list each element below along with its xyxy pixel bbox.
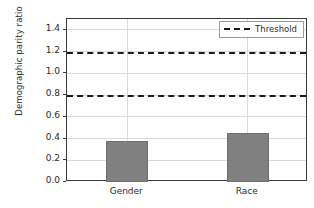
bar-gender <box>106 141 148 182</box>
y-tick-label: 0.2 <box>20 154 60 163</box>
bar-race <box>227 133 269 182</box>
threshold-line-icon <box>224 28 250 32</box>
gridline-horizontal <box>67 160 306 161</box>
x-tick-label: Gender <box>81 186 171 196</box>
gridline-horizontal <box>67 116 306 117</box>
plot-area: Threshold <box>66 18 307 181</box>
y-tick-label: 0.0 <box>20 176 60 185</box>
y-tick-label: 0.6 <box>20 111 60 120</box>
y-tick-label: 0.8 <box>20 89 60 98</box>
y-tick-mark <box>63 181 66 182</box>
gridline-horizontal <box>67 138 306 139</box>
y-tick-label: 1.2 <box>20 46 60 55</box>
y-tick-label: 1.4 <box>20 24 60 33</box>
legend-item-label: Threshold <box>255 25 297 34</box>
chart-figure: Demographic parity ratio 0.00.20.40.60.8… <box>0 0 314 208</box>
legend[interactable]: Threshold <box>219 21 304 38</box>
lower-threshold <box>67 95 306 97</box>
y-tick-label: 1.0 <box>20 67 60 76</box>
x-tick-label: Race <box>202 186 292 196</box>
y-tick-label: 0.4 <box>20 133 60 142</box>
upper-threshold <box>67 52 306 54</box>
gridline-horizontal <box>67 73 306 74</box>
